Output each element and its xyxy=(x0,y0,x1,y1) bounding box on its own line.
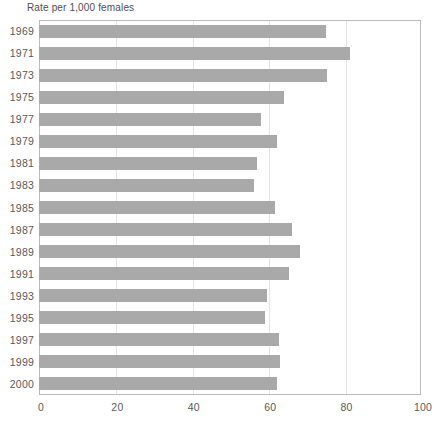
bar-1979 xyxy=(39,135,277,148)
bar-1977 xyxy=(39,113,261,126)
bar-row xyxy=(39,201,421,214)
x-axis-label-20: 20 xyxy=(111,400,123,414)
bar-row xyxy=(39,333,421,346)
bar-row xyxy=(39,91,421,104)
bar-1995 xyxy=(39,311,265,324)
y-axis-label-1999: 1999 xyxy=(10,356,34,368)
y-axis-label-1981: 1981 xyxy=(10,157,34,169)
bar-1983 xyxy=(39,179,254,192)
x-axis-label-60: 60 xyxy=(264,400,276,414)
x-axis-label-40: 40 xyxy=(188,400,200,414)
bar-1985 xyxy=(39,201,275,214)
bar-row xyxy=(39,267,421,280)
bar-1975 xyxy=(39,91,284,104)
y-axis-label-1987: 1987 xyxy=(10,224,34,236)
y-axis-labels: 1969197119731975197719791981198319851987… xyxy=(0,20,34,395)
y-axis-label-1969: 1969 xyxy=(10,25,34,37)
y-axis-label-1973: 1973 xyxy=(10,69,34,81)
bar-1989 xyxy=(39,245,300,258)
x-axis-label-0: 0 xyxy=(38,400,44,414)
bar-row xyxy=(39,69,421,82)
x-axis-label-80: 80 xyxy=(341,400,353,414)
bar-1999 xyxy=(39,355,280,368)
bar-row xyxy=(39,311,421,324)
y-axis-label-1977: 1977 xyxy=(10,113,34,125)
bar-1973 xyxy=(39,69,327,82)
x-axis-label-100: 100 xyxy=(414,400,432,414)
y-axis-label-1983: 1983 xyxy=(10,179,34,191)
y-axis-label-1997: 1997 xyxy=(10,334,34,346)
y-axis-label-1975: 1975 xyxy=(10,91,34,103)
y-axis-label-1989: 1989 xyxy=(10,246,34,258)
bar-row xyxy=(39,47,421,60)
y-axis-label-1991: 1991 xyxy=(10,268,34,280)
bar-row xyxy=(39,179,421,192)
bar-row xyxy=(39,25,421,38)
bar-chart: Rate per 1,000 females 19691971197319751… xyxy=(0,0,442,431)
y-axis-label-1971: 1971 xyxy=(10,47,34,59)
bars-layer xyxy=(39,20,421,395)
bar-row xyxy=(39,113,421,126)
bar-1991 xyxy=(39,267,289,280)
bar-row xyxy=(39,135,421,148)
bar-row xyxy=(39,157,421,170)
bar-row xyxy=(39,245,421,258)
bar-1993 xyxy=(39,289,267,302)
bar-row xyxy=(39,377,421,390)
y-axis-label-1993: 1993 xyxy=(10,290,34,302)
bar-2000 xyxy=(39,377,277,390)
bar-row xyxy=(39,223,421,236)
bar-1981 xyxy=(39,157,257,170)
bar-row xyxy=(39,355,421,368)
y-axis-label-1985: 1985 xyxy=(10,202,34,214)
bar-1987 xyxy=(39,223,292,236)
x-axis-labels: 020406080100 xyxy=(0,400,442,420)
bar-row xyxy=(39,289,421,302)
y-axis-label-1995: 1995 xyxy=(10,312,34,324)
chart-title: Rate per 1,000 females xyxy=(27,1,134,14)
y-axis-label-1979: 1979 xyxy=(10,135,34,147)
bar-1971 xyxy=(39,47,350,60)
bar-1969 xyxy=(39,25,326,38)
bar-1997 xyxy=(39,333,279,346)
y-axis-label-2000: 2000 xyxy=(10,378,34,390)
